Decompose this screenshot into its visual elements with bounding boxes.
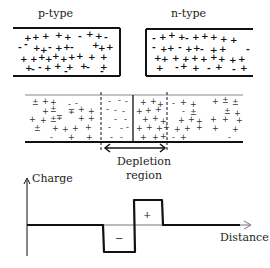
charge-plot xyxy=(24,178,251,256)
svg-text:+: + xyxy=(220,34,228,44)
svg-text:+: + xyxy=(85,123,92,132)
svg-text:+: + xyxy=(100,52,108,62)
svg-text:-: - xyxy=(125,97,128,106)
svg-text:+: + xyxy=(152,133,159,142)
svg-text:+: + xyxy=(140,133,147,142)
distance-axis-label: Distance xyxy=(220,232,269,243)
svg-text:+: + xyxy=(72,124,79,133)
junction-block: ±++-- +±∓++ ++±∓++ ±++++ -++ --- --- -- … xyxy=(25,92,243,152)
svg-text:+: + xyxy=(55,30,63,40)
svg-text:∓: ∓ xyxy=(56,113,63,122)
svg-text:+: + xyxy=(236,116,243,125)
depletion-label: Depletion xyxy=(117,156,171,167)
svg-text:+: + xyxy=(54,61,62,71)
svg-text:±: ± xyxy=(32,98,39,107)
svg-text:+: + xyxy=(230,35,238,45)
svg-text:+: + xyxy=(180,61,188,71)
svg-text:-: - xyxy=(50,133,53,142)
svg-text:+: + xyxy=(215,62,223,72)
svg-text:+: + xyxy=(146,123,153,132)
svg-text:-: - xyxy=(18,42,22,52)
svg-text:-: - xyxy=(108,123,111,132)
svg-text:+: + xyxy=(160,132,167,141)
svg-text:-: - xyxy=(106,105,109,114)
svg-text:+: + xyxy=(40,116,47,125)
svg-text:-: - xyxy=(178,42,182,52)
p-type-block: +++++ -++- --++- ++-+++ +++++ +++++ +--+… xyxy=(13,28,120,76)
p-type-label: p-type xyxy=(38,8,73,19)
svg-text:+: + xyxy=(168,30,176,40)
svg-text:+: + xyxy=(192,63,200,73)
svg-text:+: + xyxy=(222,115,229,124)
svg-text:-: - xyxy=(78,31,82,41)
svg-text:-: - xyxy=(246,44,250,54)
svg-text:-: - xyxy=(232,64,236,74)
svg-text:-: - xyxy=(175,62,179,72)
svg-text:+: + xyxy=(196,123,203,132)
svg-text:+: + xyxy=(68,133,75,142)
svg-text:+: + xyxy=(184,124,191,133)
svg-text:+: + xyxy=(152,114,159,123)
svg-text:-: - xyxy=(228,133,231,142)
svg-text:-: - xyxy=(114,106,117,115)
svg-text:±: ± xyxy=(34,124,41,133)
svg-text:+: + xyxy=(52,124,59,133)
svg-text:+: + xyxy=(68,52,76,62)
svg-text:-: - xyxy=(118,96,121,105)
svg-text:+: + xyxy=(167,43,175,53)
svg-text:+: + xyxy=(210,32,218,42)
svg-text:+: + xyxy=(180,98,187,107)
svg-text:+: + xyxy=(201,31,209,41)
svg-text:+: + xyxy=(212,97,219,106)
svg-text:-: - xyxy=(31,64,35,74)
svg-text:±: ± xyxy=(232,98,239,107)
svg-text:∓: ∓ xyxy=(68,107,75,116)
svg-text:+: + xyxy=(29,115,36,124)
svg-text:-: - xyxy=(120,133,123,142)
svg-text:-: - xyxy=(104,32,108,42)
svg-text:-: - xyxy=(114,115,117,124)
svg-text:-: - xyxy=(172,99,175,108)
svg-text:-: - xyxy=(64,66,68,76)
svg-text:-: - xyxy=(38,62,42,72)
svg-text:+: + xyxy=(145,106,152,115)
svg-text:+: + xyxy=(78,105,85,114)
svg-text:-: - xyxy=(120,124,123,133)
svg-text:+: + xyxy=(44,63,52,73)
charge-axis-label: Charge xyxy=(32,173,73,184)
region-label: region xyxy=(126,170,162,181)
svg-text:-: - xyxy=(172,133,175,142)
svg-text:+: + xyxy=(32,32,40,42)
svg-text:+: + xyxy=(78,114,85,123)
svg-text:-: - xyxy=(185,33,189,43)
svg-text:+: + xyxy=(180,133,187,142)
svg-text:-: - xyxy=(86,62,90,72)
svg-text:+: + xyxy=(192,32,200,42)
svg-text:+: + xyxy=(240,63,248,73)
n-type-block: -+++- +++++ -++-+ +-++- +++++ +++++ +-++… xyxy=(146,29,253,76)
svg-text:-: - xyxy=(100,66,104,76)
svg-text:+: + xyxy=(76,51,84,61)
svg-text:+: + xyxy=(212,124,219,133)
svg-text:+: + xyxy=(232,125,239,134)
svg-text:-: - xyxy=(126,123,129,132)
svg-text:+: + xyxy=(163,123,170,132)
svg-text:+: + xyxy=(42,97,49,106)
svg-text:+: + xyxy=(191,53,199,63)
svg-text:+: + xyxy=(64,32,72,42)
svg-text:±: ± xyxy=(222,96,229,105)
svg-text:-: - xyxy=(24,39,28,49)
svg-text:+: + xyxy=(52,51,60,61)
svg-text:-: - xyxy=(182,107,185,116)
svg-text:+: + xyxy=(88,114,95,123)
svg-text:+: + xyxy=(86,29,94,39)
negative-charge-sign: − xyxy=(115,234,123,244)
svg-text:+: + xyxy=(188,115,195,124)
svg-text:+: + xyxy=(210,52,218,62)
svg-text:-: - xyxy=(70,42,74,52)
svg-text:+: + xyxy=(86,133,93,142)
svg-text:+: + xyxy=(42,31,50,41)
svg-text:+: + xyxy=(136,124,143,133)
svg-text:+: + xyxy=(219,44,227,54)
svg-text:+: + xyxy=(106,42,114,52)
